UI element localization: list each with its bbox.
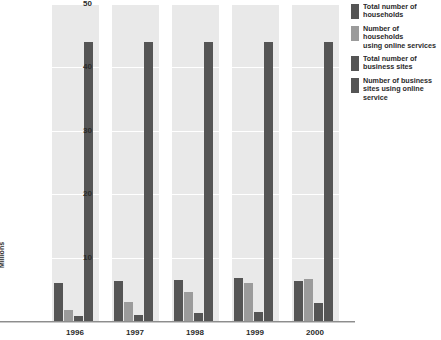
bar-2000-series-3	[324, 42, 333, 321]
plot-area: 19961997199819992000	[45, 4, 345, 321]
bar-1999-series-2	[254, 312, 263, 322]
legend-swatch-households-online	[351, 26, 359, 41]
legend-item-total-business-sites: Total number of business sites	[351, 55, 441, 72]
x-tick-2000: 2000	[285, 328, 345, 337]
bar-chart: 19961997199819992000 1020304050 Millions…	[0, 0, 441, 340]
legend-swatch-total-business-sites	[351, 56, 359, 71]
legend: Total number of households Number of hou…	[351, 3, 441, 107]
y-tick-10: 10	[62, 253, 92, 262]
legend-item-business-sites-online: Number of business sites using online se…	[351, 77, 441, 102]
x-tick-1999: 1999	[225, 328, 285, 337]
x-tick-1997: 1997	[105, 328, 165, 337]
legend-label-households-online: Number of households using online servic…	[363, 25, 441, 50]
bar-1996-series-1	[64, 310, 73, 321]
bar-1999-series-0	[234, 278, 243, 321]
legend-swatch-business-sites-online	[351, 78, 359, 93]
bar-1999-series-1	[244, 283, 253, 321]
y-tick-30: 30	[62, 126, 92, 135]
legend-swatch-total-households	[351, 4, 359, 19]
legend-item-total-households: Total number of households	[351, 3, 441, 20]
bar-1999-series-3	[264, 42, 273, 321]
legend-label-total-households: Total number of households	[363, 3, 417, 20]
x-tick-1996: 1996	[45, 328, 105, 337]
bar-1998-series-1	[184, 292, 193, 321]
bar-2000-series-2	[314, 303, 323, 321]
y-tick-50: 50	[62, 0, 92, 8]
legend-label-total-business-sites: Total number of business sites	[363, 55, 417, 72]
legend-label-business-sites-online: Number of business sites using online se…	[363, 77, 441, 102]
bar-1998-series-2	[194, 313, 203, 321]
x-tick-1998: 1998	[165, 328, 225, 337]
y-axis-title: Millions	[0, 242, 5, 268]
legend-item-households-online: Number of households using online servic…	[351, 25, 441, 50]
y-tick-20: 20	[62, 189, 92, 198]
bar-1997-series-3	[144, 42, 153, 321]
bar-1996-series-0	[54, 283, 63, 321]
bar-2000-series-1	[304, 279, 313, 321]
y-tick-40: 40	[62, 62, 92, 71]
bar-1998-series-0	[174, 280, 183, 321]
bar-1996-series-3	[84, 42, 93, 321]
bar-2000-series-0	[294, 281, 303, 321]
bar-1997-series-1	[124, 302, 133, 321]
bar-1997-series-0	[114, 281, 123, 321]
x-axis-line-shadow	[0, 322, 355, 323]
bar-1998-series-3	[204, 42, 213, 321]
